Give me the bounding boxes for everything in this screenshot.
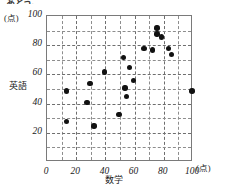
gridline-vertical xyxy=(149,16,150,160)
data-point xyxy=(121,55,126,60)
y-tick-label: 80 xyxy=(16,38,42,48)
scatter-plot-figure: あとう。 (点) (点) 英語 数学 204060801000204060801… xyxy=(0,0,227,190)
plot-inner xyxy=(47,16,191,160)
x-tick-label: 60 xyxy=(121,166,147,176)
gridline-horizontal xyxy=(47,74,191,75)
x-tick-label: 80 xyxy=(150,166,176,176)
y-axis-title: 英語 xyxy=(9,79,27,92)
gridline-vertical xyxy=(91,16,92,160)
y-tick-label: 40 xyxy=(16,97,42,107)
data-point xyxy=(91,123,96,128)
x-tick-label: 40 xyxy=(91,166,117,176)
x-tick-label: 20 xyxy=(62,166,88,176)
y-tick-label: 100 xyxy=(16,9,42,19)
data-point xyxy=(116,112,121,117)
data-point xyxy=(141,46,146,51)
data-point xyxy=(102,69,107,74)
gridline-vertical xyxy=(120,16,121,160)
data-point xyxy=(159,34,164,39)
gridline-vertical xyxy=(135,16,136,160)
gridline-vertical xyxy=(178,16,179,160)
gridline-horizontal xyxy=(47,133,191,134)
data-point xyxy=(150,47,155,52)
data-point xyxy=(154,25,159,30)
data-point xyxy=(189,88,194,93)
y-tick-label: 60 xyxy=(16,67,42,77)
gridline-horizontal xyxy=(47,104,191,105)
data-point xyxy=(64,88,69,93)
gridline-horizontal xyxy=(47,60,191,61)
gridline-vertical xyxy=(105,16,106,160)
gridline-horizontal xyxy=(47,147,191,148)
x-tick-label: 0 xyxy=(33,166,59,176)
gridline-vertical xyxy=(62,16,63,160)
x-tick-label: 100 xyxy=(179,166,205,176)
data-point xyxy=(122,85,127,90)
data-point xyxy=(87,81,92,86)
gridline-horizontal xyxy=(47,31,191,32)
gridline-horizontal xyxy=(47,118,191,119)
data-point xyxy=(84,100,89,105)
y-tick-label: 20 xyxy=(16,126,42,136)
clipped-header-text: あとう。 xyxy=(6,0,40,4)
gridline-vertical xyxy=(76,16,77,160)
